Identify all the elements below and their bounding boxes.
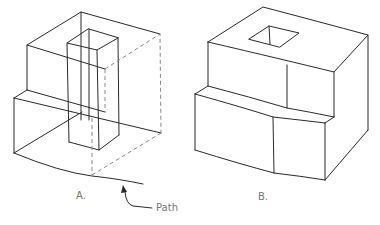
- figure-a: A. Path: [14, 12, 178, 213]
- path-curve: [14, 153, 143, 184]
- hidden-bottom-edge: [92, 133, 161, 175]
- lower-block-top-edge: [14, 98, 161, 133]
- upper-front-bottom-edge: [208, 86, 334, 117]
- step-left-edge: [195, 86, 208, 94]
- right-face-bottom-edge: [325, 130, 368, 180]
- lower-front-bottom-edge: [195, 150, 325, 180]
- pillar-right-edge: [118, 38, 119, 135]
- top-face: [208, 7, 368, 72]
- lower-front-seam: [273, 117, 274, 173]
- pillar-top: [67, 29, 118, 50]
- upper-box-top-front-edge: [27, 45, 105, 69]
- figure-b-label: B.: [258, 191, 268, 202]
- hidden-right-back: [105, 34, 161, 133]
- step-right-edge: [325, 117, 334, 123]
- figure-b: B.: [195, 7, 368, 202]
- upper-box-bottom-edge: [27, 90, 105, 112]
- step-back-edge: [14, 90, 27, 98]
- figure-a-label: A.: [76, 190, 86, 201]
- square-hole: [249, 26, 299, 47]
- lower-block-diagonal: [14, 112, 82, 153]
- arrowhead-icon: [121, 185, 127, 193]
- diagram-canvas: A. Path B.: [0, 0, 380, 225]
- path-arrow-line: [125, 192, 152, 208]
- hole-inner-edge: [269, 26, 270, 44]
- path-annotation: Path: [156, 202, 178, 213]
- step-front-edge: [195, 94, 325, 123]
- pillar-front-edge: [97, 50, 99, 150]
- pillar-bottom: [69, 135, 119, 150]
